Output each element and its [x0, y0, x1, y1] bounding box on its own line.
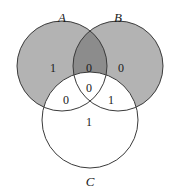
set-label-b: B — [106, 11, 130, 24]
region-value-a-and-c: 0 — [56, 94, 76, 106]
set-label-c: C — [78, 175, 102, 188]
region-value-b-only: 0 — [111, 62, 131, 74]
region-value-a-only: 1 — [43, 62, 63, 74]
region-value-c-only: 1 — [79, 116, 99, 128]
region-value-a-b-c: 0 — [79, 82, 99, 94]
set-label-a: A — [50, 11, 74, 24]
region-value-b-and-c: 1 — [101, 94, 121, 106]
venn-diagram-figure: A B C 1 0 0 0 0 1 1 — [0, 0, 178, 190]
venn-diagram-canvas — [0, 0, 178, 190]
region-value-a-and-b: 0 — [79, 62, 99, 74]
